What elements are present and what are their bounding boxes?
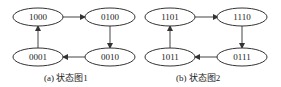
state-diagrams: 1000 0100 0010 0001 1101 1110 0111 1011: [0, 0, 281, 87]
state-label: 1011: [161, 52, 179, 62]
state-label: 1101: [161, 12, 179, 22]
state-diagram-a: 1000 0100 0010 0001: [13, 8, 135, 66]
state-label: 0100: [101, 12, 120, 22]
state-label: 1110: [233, 12, 251, 22]
state-label: 0111: [233, 52, 250, 62]
caption-a: (a) 状态图1: [44, 71, 88, 84]
state-label: 0001: [29, 52, 47, 62]
state-label: 0010: [101, 52, 120, 62]
caption-b: (b) 状态图2: [176, 71, 220, 84]
state-label: 1000: [29, 12, 48, 22]
state-diagram-b: 1101 1110 0111 1011: [145, 8, 267, 66]
